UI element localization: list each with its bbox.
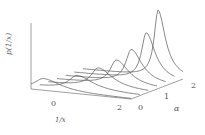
x-tick-2: 2 — [117, 104, 122, 112]
density-curves — [31, 10, 183, 98]
x-axis-label: 1/x — [55, 117, 66, 124]
x-tick-0: 0 — [51, 100, 56, 108]
waterfall-plot — [0, 0, 205, 135]
z-tick-2: 2 — [191, 82, 196, 90]
density-curve — [83, 10, 183, 72]
z-tick-0: 0 — [138, 104, 143, 112]
density-curve — [74, 33, 174, 76]
z-axis-label: α — [174, 105, 179, 113]
y-axis-label: p(1/x) — [4, 33, 13, 55]
density-curve — [66, 50, 166, 82]
z-axis — [131, 79, 183, 99]
z-tick-1: 1 — [164, 93, 169, 101]
